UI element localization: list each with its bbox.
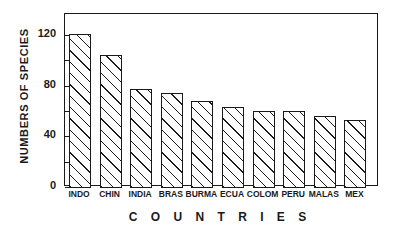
bar-malas bbox=[314, 116, 336, 188]
y-tick-label: 120 bbox=[22, 27, 56, 39]
x-tick-label-mex: MEX bbox=[331, 189, 377, 199]
plot-area bbox=[64, 13, 378, 186]
y-tick-label: 0 bbox=[22, 179, 56, 191]
bar-chin bbox=[100, 55, 122, 188]
bar-ecua bbox=[222, 107, 244, 188]
x-axis-title: C O U N T R I E S bbox=[62, 210, 378, 224]
bar-bras bbox=[161, 93, 183, 188]
bar-chart-figure: NUMBERS OF SPECIES 12080400 INDOCHININDI… bbox=[0, 0, 397, 238]
bar-mex bbox=[344, 120, 366, 188]
bar-india bbox=[130, 89, 152, 188]
bar-peru bbox=[283, 111, 305, 188]
y-tick-label: 80 bbox=[22, 78, 56, 90]
y-tick-label: 40 bbox=[22, 128, 56, 140]
bar-indo bbox=[69, 34, 91, 188]
bar-burma bbox=[191, 101, 213, 188]
bar-colom bbox=[253, 111, 275, 188]
